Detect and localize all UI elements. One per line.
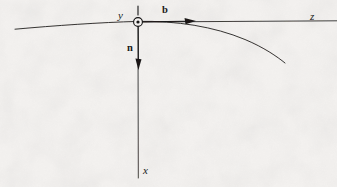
b-vector-shaft: [139, 21, 190, 22]
vector-label-n: n: [127, 43, 133, 54]
axis-label-x: x: [143, 165, 148, 176]
axis-label-y: y: [118, 10, 123, 21]
paper-grain: [0, 0, 337, 187]
vector-label-b: b: [162, 5, 168, 16]
diagram-canvas: [0, 0, 337, 187]
origin-center-dot-icon: [136, 20, 139, 23]
axis-label-z: z: [310, 11, 314, 22]
figure-container: y b z n x: [0, 0, 337, 187]
